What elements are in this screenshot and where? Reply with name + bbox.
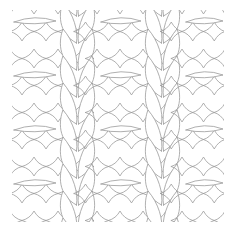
purl-mesh-cell [34,184,58,203]
purl-mesh-cell [22,103,46,122]
purl-mesh-cell [34,76,58,95]
purl-mesh-cell [109,157,132,176]
purl-mesh-cell [120,76,143,95]
purl-mesh-cell [10,76,34,95]
purl-mesh-cell [120,184,143,203]
purl-mesh-cell [204,130,226,149]
purl-bump [186,18,223,24]
purl-bump [101,126,141,132]
purl-mesh-cell [204,76,226,95]
purl-mesh-cell [97,130,120,149]
purl-mesh-cell [109,103,132,122]
stitch-pattern-artwork [0,0,228,232]
purl-mesh-cell [34,130,58,149]
purl-mesh-cell [22,157,46,176]
purl-bump [186,180,223,186]
purl-mesh-cell [97,184,120,203]
purl-mesh-cell [182,76,204,95]
purl-mesh-cell [193,157,215,176]
purl-mesh-cell [97,22,120,41]
purl-mesh-cell [193,103,215,122]
purl-bump [101,72,141,78]
purl-mesh-cell [97,76,120,95]
purl-bump [14,180,56,186]
purl-bump [101,18,141,24]
purl-mesh-cell [182,184,204,203]
purl-bump [186,126,223,132]
purl-mesh-cell [182,22,204,41]
purl-mesh-cell [10,22,34,41]
purl-bump [186,72,223,78]
purl-mesh-cell [193,49,215,68]
purl-mesh-cell [182,130,204,149]
purl-mesh-cell [10,130,34,149]
purl-mesh-cell [109,49,132,68]
purl-bump [14,126,56,132]
purl-mesh-cell [204,184,226,203]
purl-mesh-cell [120,130,143,149]
purl-mesh-cell [120,22,143,41]
purl-mesh-cell [10,184,34,203]
knitting-stitch-diagram: Knitting stitch illustration: stockinett… [0,0,228,232]
purl-bump [14,18,56,24]
purl-mesh-cell [204,22,226,41]
purl-bump [101,180,141,186]
purl-mesh-cell [34,22,58,41]
purl-mesh-cell [22,49,46,68]
purl-bump [14,72,56,78]
